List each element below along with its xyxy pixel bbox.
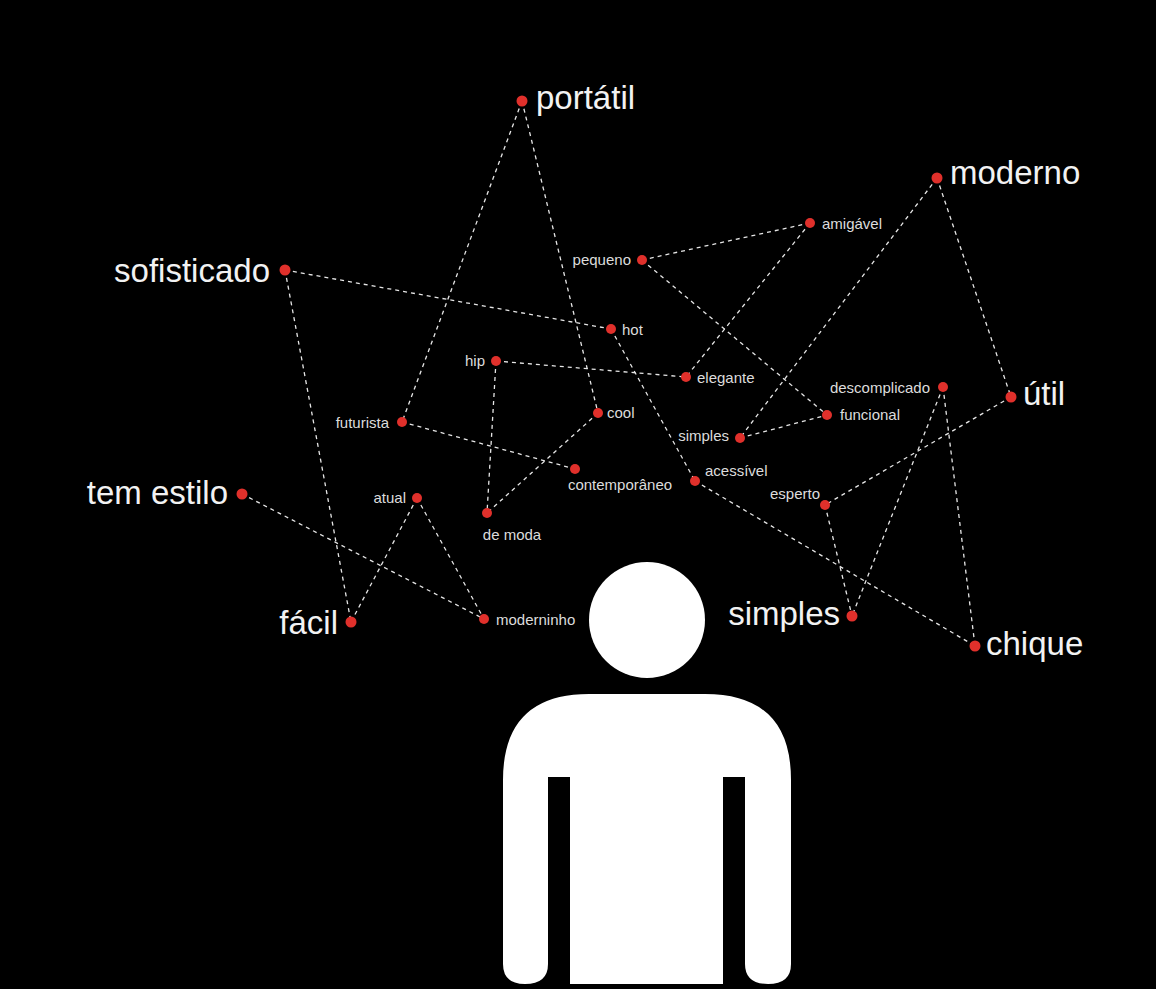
node-dot-de_moda <box>482 508 492 518</box>
node-label-contemporaneo: contemporâneo <box>568 476 672 493</box>
node-label-simples_small: simples <box>678 427 729 444</box>
node-label-atual: atual <box>373 489 406 506</box>
node-dot-elegante <box>681 372 691 382</box>
person-body <box>503 694 791 984</box>
node-label-simples_large: simples <box>728 595 840 632</box>
node-label-acessivel: acessível <box>705 462 768 479</box>
node-dot-cool <box>593 408 603 418</box>
node-label-de_moda: de moda <box>483 526 542 543</box>
node-dot-hot <box>606 324 616 334</box>
node-dot-esperto <box>820 500 830 510</box>
node-dot-moderno <box>932 173 943 184</box>
node-dot-descomplicado <box>938 382 948 392</box>
node-dot-acessivel <box>690 476 700 486</box>
node-dot-atual <box>412 493 422 503</box>
node-label-amigavel: amigável <box>822 215 882 232</box>
node-label-tem_estilo: tem estilo <box>87 474 228 511</box>
node-label-hip: hip <box>465 352 485 369</box>
node-label-moderninho: moderninho <box>496 611 575 628</box>
node-label-elegante: elegante <box>697 369 755 386</box>
node-dot-tem_estilo <box>237 489 248 500</box>
person-head <box>589 562 705 678</box>
node-dot-funcional <box>822 410 832 420</box>
node-dot-portatil <box>517 96 528 107</box>
node-dot-util <box>1006 392 1017 403</box>
node-label-moderno: moderno <box>950 154 1080 191</box>
node-dot-hip <box>491 356 501 366</box>
node-label-descomplicado: descomplicado <box>830 379 930 396</box>
node-label-funcional: funcional <box>840 406 900 423</box>
node-label-portatil: portátil <box>536 79 635 116</box>
node-dot-futurista <box>397 417 407 427</box>
node-label-cool: cool <box>607 404 635 421</box>
node-label-chique: chique <box>986 625 1083 662</box>
node-dot-contemporaneo <box>570 464 580 474</box>
node-dot-pequeno <box>637 255 647 265</box>
node-dot-moderninho <box>479 614 489 624</box>
node-label-util: útil <box>1023 375 1065 412</box>
node-label-pequeno: pequeno <box>573 251 631 268</box>
node-dot-amigavel <box>805 218 815 228</box>
node-dot-chique <box>970 641 981 652</box>
node-label-esperto: esperto <box>770 485 820 502</box>
node-dot-simples_small <box>735 433 745 443</box>
node-dot-facil <box>346 617 357 628</box>
node-label-sofisticado: sofisticado <box>114 252 270 289</box>
node-label-hot: hot <box>622 321 644 338</box>
word-association-diagram: portátilmodernosofisticadotem estilofáci… <box>0 0 1156 989</box>
node-label-facil: fácil <box>279 604 338 641</box>
node-label-futurista: futurista <box>336 414 390 431</box>
node-dot-sofisticado <box>280 265 291 276</box>
node-dot-simples_large <box>847 611 858 622</box>
